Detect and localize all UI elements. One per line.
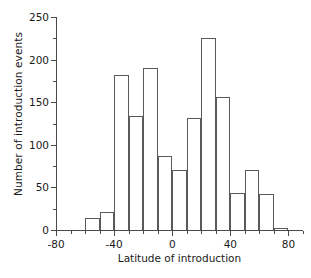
y-tick-label: 100 (29, 139, 49, 151)
histogram-bar (114, 75, 129, 230)
histogram-bar (274, 228, 289, 230)
histogram-bar (245, 170, 260, 230)
y-tick-major (51, 17, 56, 18)
y-tick-label: 0 (42, 224, 49, 236)
x-tick-major (114, 231, 115, 236)
histogram-bar (129, 116, 144, 230)
y-tick-minor (53, 81, 56, 82)
y-tick-major (51, 187, 56, 188)
x-tick-label: 0 (169, 238, 176, 250)
x-tick-label: 40 (224, 238, 237, 250)
x-tick-major (172, 231, 173, 236)
y-tick-label: 150 (29, 96, 49, 108)
x-tick-label: 80 (282, 238, 295, 250)
y-tick-label: 200 (29, 54, 49, 66)
y-axis-title: Number of introduction events (12, 4, 24, 224)
x-tick-minor (201, 231, 202, 234)
histogram-bar (216, 97, 231, 230)
histogram-bar (172, 170, 187, 230)
x-tick-minor (85, 231, 86, 234)
histogram-bar (158, 156, 173, 230)
x-tick-minor (143, 231, 144, 234)
histogram-bar (230, 193, 245, 230)
x-tick-major (56, 231, 57, 236)
x-tick-minor (303, 231, 304, 234)
x-tick-minor (71, 231, 72, 234)
x-tick-minor (274, 231, 275, 234)
histogram-bar (187, 118, 202, 230)
histogram-bar (85, 218, 100, 230)
y-tick-minor (53, 166, 56, 167)
y-tick-major (51, 102, 56, 103)
histogram-bar (100, 212, 115, 230)
y-tick-label: 250 (29, 11, 49, 23)
x-tick-label: -40 (106, 238, 123, 250)
x-tick-minor (216, 231, 217, 234)
y-tick-major (51, 145, 56, 146)
x-tick-minor (129, 231, 130, 234)
x-tick-minor (100, 231, 101, 234)
x-tick-minor (245, 231, 246, 234)
x-tick-label: -80 (47, 238, 64, 250)
y-tick-minor (53, 124, 56, 125)
y-tick-label: 50 (36, 181, 49, 193)
x-tick-minor (158, 231, 159, 234)
x-tick-minor (259, 231, 260, 234)
plot-area: 050100150200250 -80-4004080 (56, 17, 303, 230)
y-tick-minor (53, 209, 56, 210)
x-tick-major (230, 231, 231, 236)
y-tick-minor (53, 38, 56, 39)
y-axis-line (56, 17, 57, 230)
x-axis-line (56, 230, 303, 231)
x-axis-title: Latitude of introduction (56, 252, 303, 264)
histogram-bar (143, 68, 158, 230)
y-tick-major (51, 60, 56, 61)
x-tick-minor (187, 231, 188, 234)
histogram-figure: Number of introduction events 0501001502… (0, 0, 311, 278)
histogram-bar (201, 38, 216, 230)
x-tick-major (288, 231, 289, 236)
histogram-bar (259, 194, 274, 230)
